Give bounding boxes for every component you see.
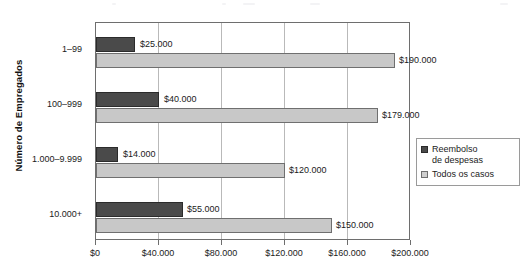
legend-label-line1: Todos os casos xyxy=(432,169,494,179)
bar-value-label: $120.000 xyxy=(289,163,327,178)
bar-reembolso xyxy=(96,202,183,217)
x-tick-mark xyxy=(95,240,96,245)
y-axis-title: Número de Empregados xyxy=(13,31,24,201)
x-tick-label: $200.000 xyxy=(370,248,450,258)
bar-value-label: $25.000 xyxy=(140,37,173,52)
legend-swatch-icon xyxy=(421,171,428,178)
bar-value-label: $40.000 xyxy=(164,92,197,107)
scan-artifact xyxy=(112,3,116,5)
scan-artifact xyxy=(222,3,226,5)
bar-group: $14.000 $120.000 xyxy=(96,147,409,179)
legend-swatch-icon xyxy=(421,146,428,153)
bar-group: $55.000 $150.000 xyxy=(96,202,409,234)
y-tick-label: 10.000+ xyxy=(0,209,82,219)
chart-legend: Reembolso de despesas Todos os casos xyxy=(416,138,520,186)
x-tick-mark xyxy=(158,240,159,245)
plot-area: $25.000 $190.000 $40.000 $179.000 $14.00… xyxy=(95,22,410,240)
x-tick-mark xyxy=(284,240,285,245)
bar-todos xyxy=(96,218,332,233)
x-tick-mark xyxy=(221,240,222,245)
legend-label-line1: Reembolso xyxy=(432,144,478,154)
bar-value-label: $179.000 xyxy=(382,108,420,123)
bar-group: $40.000 $179.000 xyxy=(96,92,409,124)
bar-group: $25.000 $190.000 xyxy=(96,37,409,69)
x-tick-mark xyxy=(410,240,411,245)
bar-todos xyxy=(96,163,285,178)
bar-reembolso xyxy=(96,92,159,107)
y-tick-label: 100–999 xyxy=(0,99,82,109)
scan-artifact xyxy=(243,3,255,5)
y-tick-label: 1–99 xyxy=(0,44,82,54)
bar-value-label: $150.000 xyxy=(336,218,374,233)
bar-value-label: $14.000 xyxy=(123,147,156,162)
bar-reembolso xyxy=(96,37,135,52)
bar-value-label: $55.000 xyxy=(187,202,220,217)
bar-reembolso xyxy=(96,147,118,162)
legend-item-label: Todos os casos xyxy=(432,169,494,180)
x-tick-mark xyxy=(347,240,348,245)
scan-artifact xyxy=(310,3,320,5)
legend-label-line2: de despesas xyxy=(432,155,483,166)
bar-chart: Número de Empregados 1–99 100–999 1.000–… xyxy=(0,0,526,275)
bar-todos xyxy=(96,53,395,68)
bar-value-label: $190.000 xyxy=(399,53,437,68)
legend-item-reembolso: Reembolso de despesas xyxy=(421,144,514,165)
y-tick-label: 1.000–9.999 xyxy=(0,154,82,164)
legend-item-label: Reembolso de despesas xyxy=(432,144,483,165)
scan-artifact xyxy=(500,3,508,5)
bar-todos xyxy=(96,108,378,123)
legend-item-todos: Todos os casos xyxy=(421,169,514,180)
